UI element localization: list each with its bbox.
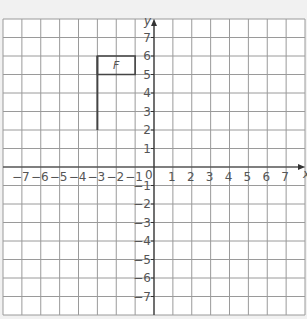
y-tick-label: −6 [133, 271, 151, 285]
x-tick-label: −3 [88, 170, 106, 184]
x-tick-label: 7 [281, 170, 289, 184]
y-axis-label: y [143, 14, 152, 28]
x-tick-label: 6 [262, 170, 270, 184]
y-tick-label: 7 [143, 31, 151, 45]
y-tick-label: −4 [133, 234, 151, 248]
x-tick-label: −7 [12, 170, 30, 184]
x-tick-label: 1 [168, 170, 176, 184]
coordinate-grid: −7−6−5−4−3−2−112345677654321−1−2−3−4−5−6… [0, 0, 307, 319]
coordinate-grid-figure: −7−6−5−4−3−2−112345677654321−1−2−3−4−5−6… [0, 0, 307, 319]
y-tick-label: −7 [133, 290, 151, 304]
origin-label: 0 [145, 168, 153, 182]
x-tick-label: −5 [50, 170, 68, 184]
y-tick-label: −3 [133, 216, 151, 230]
x-tick-label: −6 [31, 170, 49, 184]
y-tick-label: 2 [143, 123, 151, 137]
shape-label-f: F [113, 59, 120, 72]
y-tick-label: 6 [143, 49, 151, 63]
x-tick-label: −4 [69, 170, 87, 184]
y-tick-label: −2 [133, 197, 151, 211]
x-axis-label: x [302, 167, 307, 181]
x-tick-label: 3 [206, 170, 214, 184]
x-tick-label: 5 [244, 170, 252, 184]
x-tick-label: 2 [187, 170, 195, 184]
y-tick-label: 1 [143, 142, 151, 156]
x-tick-label: 4 [225, 170, 233, 184]
y-tick-label: 4 [143, 86, 151, 100]
y-tick-label: 5 [143, 68, 151, 82]
y-tick-label: 3 [143, 105, 151, 119]
y-tick-label: −5 [133, 253, 151, 267]
x-tick-label: −2 [106, 170, 124, 184]
